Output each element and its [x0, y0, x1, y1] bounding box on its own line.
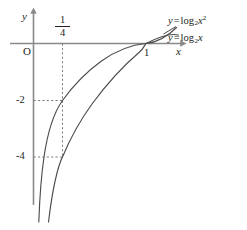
curve-label-variable: y [168, 32, 173, 43]
curve-label-equals: = [173, 15, 181, 26]
y-tick-label-minus-two: -2 [16, 95, 25, 106]
curve-label-equals: = [173, 32, 181, 43]
log-function-graph-figure: y x O 1 -2 -4 1 4 y=log2x2 y=log2x [0, 0, 247, 230]
x-tick-label-one: 1 [144, 48, 149, 59]
fraction-numerator: 1 [55, 15, 70, 26]
graph-canvas [0, 0, 247, 230]
y-axis-label: y [22, 11, 27, 22]
y-tick-label-minus-four: -4 [16, 151, 25, 162]
curve-label-argument: x [198, 32, 203, 43]
curve-label-variable: y [168, 15, 173, 26]
x-tick-label-one-quarter: 1 4 [55, 15, 70, 38]
curve-log2-x [49, 34, 179, 222]
fraction-denominator: 4 [55, 28, 70, 39]
curve-label-exponent: 2 [203, 14, 207, 22]
curve-label-log2-x: y=log2x [168, 33, 203, 45]
curve-log2-x-squared [39, 28, 177, 223]
x-axis-label: x [176, 46, 181, 57]
origin-label: O [23, 46, 31, 57]
curve-label-function: log [181, 32, 194, 43]
curve-label-function: log [181, 15, 194, 26]
curve-label-log2-x-squared: y=log2x2 [168, 15, 206, 27]
